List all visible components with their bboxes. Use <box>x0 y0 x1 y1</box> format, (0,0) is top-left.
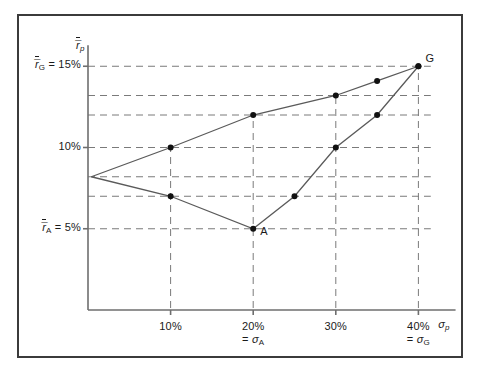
y-axis-title: r̅p <box>76 39 85 53</box>
y-axis-title-symbol: r̅ <box>76 39 80 51</box>
figure-container: r̅p σp r̅G = 15%10%r̅A = 5% 10%20%= σA30… <box>0 0 480 374</box>
x-tick-label: 10% <box>141 320 201 332</box>
data-point <box>168 145 174 151</box>
point-label-g: G <box>425 52 434 64</box>
y-tick-label: r̅G = 15% <box>35 58 81 72</box>
data-point <box>374 112 380 118</box>
data-point <box>415 63 421 69</box>
data-point <box>333 145 339 151</box>
point-label-a: A <box>260 225 267 237</box>
data-point <box>168 193 174 199</box>
chart-canvas <box>0 0 480 374</box>
x-tick-label: 40%= σG <box>388 320 448 347</box>
y-tick-label: 10% <box>58 140 81 152</box>
y-axis-title-subscript: p <box>80 44 85 53</box>
data-point <box>250 226 256 232</box>
data-point <box>292 193 298 199</box>
axis-ticks-group <box>83 66 418 315</box>
gridlines-group <box>88 66 431 308</box>
data-point <box>374 78 380 84</box>
axes-lines-group <box>88 45 456 310</box>
data-point <box>333 93 339 99</box>
y-tick-label: r̅A = 5% <box>42 221 81 235</box>
data-point <box>250 112 256 118</box>
x-tick-label: 20%= σA <box>223 320 283 347</box>
x-tick-label: 30% <box>306 320 366 332</box>
